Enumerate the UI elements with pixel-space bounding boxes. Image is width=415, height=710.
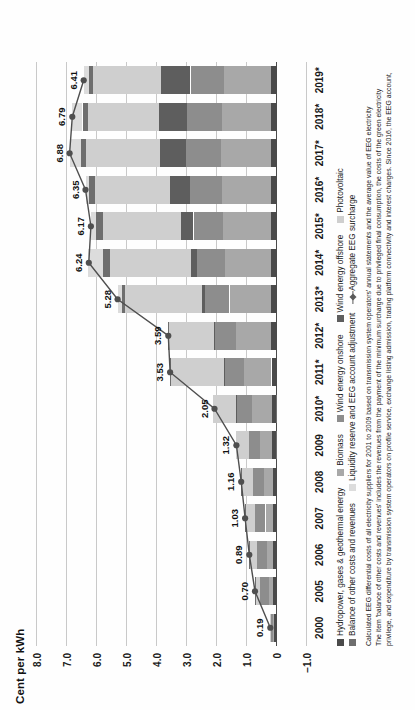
x-axis-tick: 2015*: [314, 213, 325, 239]
stacked-bar[interactable]: [36, 614, 306, 642]
x-axis-tick: 2018*: [314, 104, 325, 130]
stacked-bar[interactable]: [36, 541, 306, 569]
bar-segment: [89, 176, 95, 204]
bar-segment: [276, 395, 277, 423]
stacked-bar[interactable]: [36, 577, 306, 605]
bar-segment: [72, 103, 82, 131]
legend-swatch-icon: [337, 639, 344, 646]
stacked-bar[interactable]: [36, 468, 306, 496]
bar-segment: [161, 66, 190, 94]
data-label: 6.35: [70, 181, 81, 200]
legend-swatch-icon: [337, 415, 344, 422]
data-label: 3.59: [152, 327, 163, 346]
bar-segment: [273, 577, 276, 605]
legend-swatch-icon: [337, 469, 344, 476]
bar-column[interactable]: 2008: [36, 464, 306, 501]
stacked-bar[interactable]: [36, 431, 306, 459]
legend-item[interactable]: Wind energy offshore: [336, 235, 345, 323]
x-axis-tick: 2019*: [314, 67, 325, 93]
bar-column[interactable]: 2007: [36, 500, 306, 537]
bar-segment: [272, 358, 277, 386]
stacked-bar[interactable]: [36, 322, 306, 350]
data-label: 1.32: [220, 436, 231, 455]
legend-swatch-icon: [349, 639, 356, 646]
bar-columns: 2000200520062007200820092010*2011*2012*2…: [36, 62, 306, 646]
bar-column[interactable]: 2005: [36, 573, 306, 610]
data-label: 3.53: [154, 363, 165, 382]
legend-item[interactable]: Hydropower, gases & geothermal energy: [336, 488, 345, 646]
bar-segment: [242, 468, 253, 496]
legend-swatch-icon: [349, 484, 356, 491]
bar-column[interactable]: 2006: [36, 537, 306, 574]
bar-segment: [170, 358, 171, 386]
legend-label: Balance of other costs and revenues: [348, 503, 357, 636]
bar-column[interactable]: 2000: [36, 610, 306, 647]
bar-segment: [271, 66, 276, 94]
bar-column[interactable]: 2010*: [36, 391, 306, 428]
legend-item[interactable]: Balance of other costs and revenues: [348, 503, 357, 646]
x-axis-tick: 2014*: [314, 250, 325, 276]
bar-segment: [222, 176, 271, 204]
rotated-chart-frame: Cent per kWh 8.07.06.05.04.03.02.01.00−1…: [0, 0, 415, 710]
diamond-marker-icon: [349, 294, 356, 301]
y-axis-tick: 0: [272, 653, 283, 659]
y-axis-tick: 3.0: [182, 653, 193, 667]
y-axis-tick: 6.0: [92, 653, 103, 667]
bar-segment: [256, 577, 260, 605]
bar-segment: [271, 285, 276, 313]
bar-segment: [271, 176, 276, 204]
bar-segment: [83, 103, 88, 131]
bar-segment: [255, 504, 266, 532]
legend-item[interactable]: Wind energy onshore: [336, 334, 345, 422]
bar-segment: [222, 103, 271, 131]
bar-segment: [88, 249, 103, 277]
data-label: 6.17: [75, 217, 86, 236]
stacked-bar[interactable]: [36, 395, 306, 423]
legend-item[interactable]: Liquidity reserve and EEG account adjust…: [348, 313, 357, 491]
bar-segment: [214, 322, 215, 350]
bar-segment: [171, 358, 224, 386]
x-axis-tick: 2009: [314, 434, 325, 456]
y-axis-tick: 2.0: [212, 653, 223, 667]
bar-segment: [253, 468, 264, 496]
bar-segment: [110, 249, 191, 277]
stacked-bar[interactable]: [36, 139, 306, 167]
bar-segment: [273, 541, 276, 569]
data-label: 5.28: [102, 290, 113, 309]
legend-label: Wind energy offshore: [336, 235, 345, 313]
bar-segment: [169, 322, 214, 350]
bar-segment: [276, 431, 277, 459]
bar-segment: [246, 504, 255, 532]
stacked-bar[interactable]: [36, 504, 306, 532]
stacked-bar[interactable]: [36, 358, 306, 386]
legend-label: Photovoltaic: [336, 168, 345, 213]
bar-segment: [224, 358, 225, 386]
y-axis-tick: 4.0: [152, 653, 163, 667]
data-label: 1.03: [229, 509, 240, 528]
bar-segment: [91, 212, 96, 240]
bar-segment: [241, 468, 242, 496]
legend-swatch-icon: [337, 315, 344, 322]
legend-item[interactable]: Photovoltaic: [336, 168, 345, 223]
stacked-bar[interactable]: [36, 103, 306, 131]
bar-segment: [271, 322, 276, 350]
legend-item[interactable]: Biomass: [336, 434, 345, 475]
bar-column[interactable]: 2009: [36, 427, 306, 464]
footnote-line-3: privilege, and expenditure by transmissi…: [384, 46, 394, 646]
data-label: 6.88: [54, 144, 65, 163]
bar-column[interactable]: 2018*: [36, 99, 306, 136]
legend-item[interactable]: Aggregate EEG surcharge: [348, 195, 357, 301]
chart-legend: Hydropower, gases & geothermal energyBio…: [336, 46, 360, 646]
bar-column[interactable]: 2017*: [36, 135, 306, 172]
bar-segment: [86, 139, 160, 167]
bar-segment: [236, 322, 271, 350]
data-label: 2.05: [199, 400, 210, 419]
bar-column[interactable]: 2013*: [36, 281, 306, 318]
bar-segment: [245, 504, 246, 532]
legend-swatch-icon: [337, 216, 344, 223]
bar-column[interactable]: 2011*: [36, 354, 306, 391]
stacked-bar[interactable]: [36, 285, 306, 313]
data-label: 1.16: [225, 473, 236, 492]
bar-column[interactable]: 2012*: [36, 318, 306, 355]
axis-title: Cent per kWh: [14, 629, 26, 704]
